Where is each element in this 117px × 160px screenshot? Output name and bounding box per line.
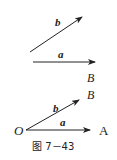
origin-label: O bbox=[14, 124, 23, 137]
figure-caption: 图 7－43 bbox=[32, 142, 74, 152]
top-point-b-label: B bbox=[87, 72, 94, 84]
point-a-label: A bbox=[99, 124, 108, 137]
bottom-a-label: a bbox=[60, 117, 66, 128]
bottom-point-b-label: B bbox=[87, 89, 94, 101]
bottom-b-label: b bbox=[53, 103, 59, 114]
top-b-label: b bbox=[55, 17, 61, 28]
top-a-label: a bbox=[58, 49, 64, 60]
